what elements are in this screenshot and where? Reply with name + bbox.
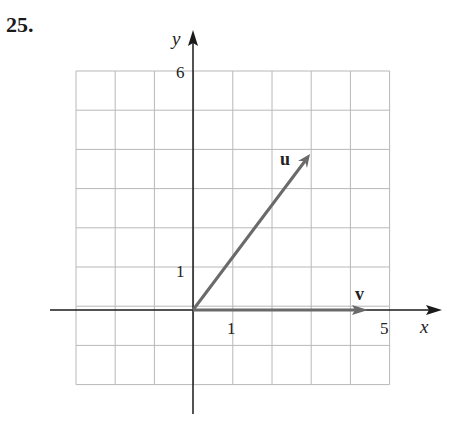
y-axis-label: y xyxy=(170,28,181,49)
tick-label-x1: 1 xyxy=(227,319,236,338)
y-axis xyxy=(188,30,198,414)
tick-label-y6: 6 xyxy=(176,63,185,82)
tick-label-x5: 5 xyxy=(380,319,389,338)
vector-v-label: v xyxy=(355,284,364,304)
vector-u-label: u xyxy=(280,149,290,169)
tick-label-y1: 1 xyxy=(176,262,185,281)
x-axis-label: x xyxy=(419,316,429,337)
vector-u xyxy=(193,154,310,310)
vector-chart: y x 6 1 1 5 u v xyxy=(0,0,459,429)
